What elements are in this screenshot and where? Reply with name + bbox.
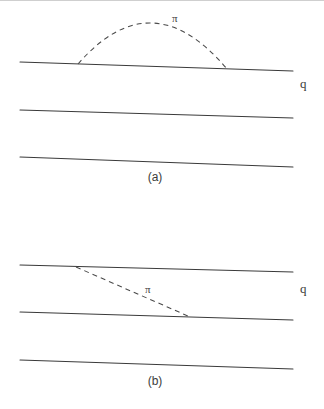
panel-b-group — [20, 265, 293, 369]
panel-a-group — [20, 23, 293, 167]
panel-a-nucleon-line-3 — [20, 157, 293, 167]
panel-b-nucleon-line-3 — [20, 360, 293, 369]
panel-b-momentum-label: q — [300, 282, 307, 295]
panel-a-nucleon-line-1 — [20, 62, 293, 71]
panel-b-pion-label: π — [145, 284, 151, 295]
feynman-diagram-figure: π q (a) π q (b) — [0, 0, 324, 409]
panel-b-nucleon-line-1 — [20, 265, 293, 272]
panel-a-pion-exchange-arc — [78, 23, 227, 69]
panel-a-caption: (a) — [148, 171, 163, 183]
panel-a-momentum-label: q — [300, 77, 307, 90]
diagram-canvas — [0, 0, 324, 409]
panel-b-pion-exchange-line — [76, 267, 188, 316]
panel-b-nucleon-line-2 — [20, 312, 293, 320]
panel-b-caption: (b) — [148, 375, 163, 387]
panel-a-pion-label: π — [172, 13, 178, 24]
panel-a-nucleon-line-2 — [20, 110, 293, 118]
